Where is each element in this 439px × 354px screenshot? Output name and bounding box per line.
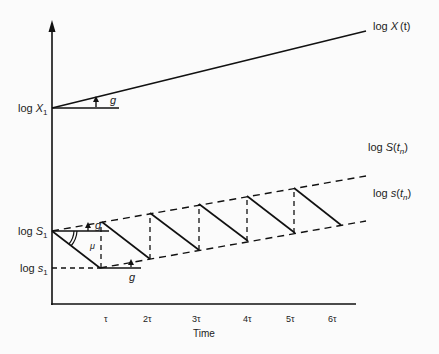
label-g-top: g [110,94,117,106]
label-log-s-tn: log s(tn) [373,187,411,202]
axes [49,20,357,305]
label-g-upper: g [95,219,102,231]
log-x-t-line-group [52,31,366,108]
drop-4 [247,196,295,233]
diagram-canvas: log X1 log S1 log s1 log X(t) log S(tn) … [0,0,439,354]
label-log-X-t: log X(t) [373,20,410,32]
label-log-s1: log s1 [20,262,48,277]
x-axis-label: Time [193,328,215,339]
drop-2 [150,213,199,250]
g-angle-arrowhead-lower-icon [128,259,134,265]
label-log-S1: log S1 [18,225,48,240]
label-mu: μ [89,241,95,251]
label-log-S-tn: log S(tn) [368,141,408,156]
label-g-lower: g [129,271,136,283]
tick-3tau: 3τ [192,314,201,324]
tick-4tau: 4τ [243,314,252,324]
label-log-X1: log X1 [18,102,48,117]
log-x-t-line [52,31,366,108]
drop-1 [102,222,150,259]
tick-6tau: 6τ [328,314,337,324]
sawtooth-rises [101,188,294,268]
drop-5 [294,188,341,225]
sawtooth-growth-diagram: log X1 log S1 log s1 log X(t) log S(tn) … [0,0,439,354]
log-s-tn-dashed-line [100,221,366,268]
tick-5tau: 5τ [286,314,295,324]
drop-3 [199,204,248,241]
tick-tau: τ [104,314,108,324]
y-axis-arrow-icon [49,20,56,32]
tick-2tau: 2τ [143,314,152,324]
x-tick-labels: τ 2τ 3τ 4τ 5τ 6τ [104,314,337,324]
